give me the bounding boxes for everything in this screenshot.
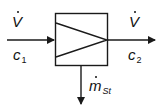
inflow-concentration-label: c1 <box>13 47 27 62</box>
inflow-volume-label: V <box>12 14 22 29</box>
inflow-concentration-symbol: c <box>13 46 21 63</box>
process-box <box>56 14 108 66</box>
outflow-concentration-subscript: 2 <box>137 55 142 65</box>
outflow-volume-symbol: V <box>129 13 139 30</box>
steam-massflow-subscript: St <box>103 86 112 96</box>
outflow-concentration-symbol: c <box>128 46 136 63</box>
diagram-canvas: V c1 V c2 mSt <box>0 0 162 112</box>
inflow-volume-symbol: V <box>12 13 22 30</box>
steam-massflow-label: mSt <box>89 78 111 93</box>
inflow-concentration-subscript: 1 <box>22 55 27 65</box>
steam-massflow-symbol: m <box>89 77 102 94</box>
outflow-concentration-label: c2 <box>128 47 142 62</box>
outflow-volume-label: V <box>129 14 139 29</box>
